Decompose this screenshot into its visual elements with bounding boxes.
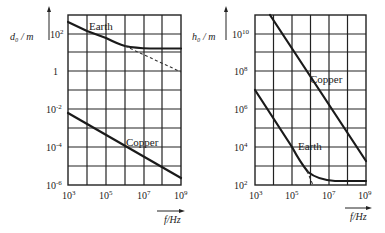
arrow-up-icon — [47, 6, 51, 12]
arrow-up-icon — [224, 6, 228, 12]
y-tick-left: 1 — [53, 66, 58, 77]
x-tick-left: 105 — [99, 189, 113, 201]
y-axis-label-right: h₀ / m — [192, 31, 215, 42]
copper-label-right: Copper — [310, 73, 343, 85]
x-tick-right: 109 — [358, 189, 372, 201]
y-tick-left: 10-4 — [46, 141, 62, 153]
earth-label-right: Earth — [298, 140, 322, 152]
y-tick-left: 102 — [50, 28, 64, 40]
arrow-right-icon — [179, 209, 185, 213]
x-axis-label-left: f/Hz — [164, 214, 181, 225]
y-tick-right: 108 — [234, 65, 248, 77]
right-chart: h₀ / m Copper Earth 1010 108 106 104 102… — [192, 6, 372, 222]
x-tick-left: 103 — [62, 189, 76, 201]
x-tick-right: 105 — [285, 189, 299, 201]
y-tick-right: 1010 — [232, 28, 250, 40]
y-tick-right: 104 — [234, 141, 248, 153]
y-tick-right: 106 — [234, 103, 248, 115]
x-tick-left: 107 — [137, 189, 151, 201]
y-tick-left: 10-2 — [46, 103, 62, 115]
right-grid — [255, 15, 366, 185]
y-tick-left: 10-6 — [46, 179, 62, 191]
copper-label-left: Copper — [126, 136, 159, 148]
y-axis-label-left: d₀ / m — [10, 31, 33, 42]
y-tick-right: 102 — [234, 179, 248, 191]
left-grid — [68, 15, 181, 185]
x-axis-label-right: f/Hz — [350, 211, 367, 222]
arrow-right-icon — [366, 206, 372, 210]
x-tick-right: 103 — [249, 189, 263, 201]
earth-label-left: Earth — [89, 20, 113, 32]
figure: d₀ / m Earth Copper 102 1 10-2 10-4 — [0, 0, 385, 233]
x-tick-left: 109 — [174, 189, 188, 201]
left-chart: d₀ / m Earth Copper 102 1 10-2 10-4 — [10, 6, 188, 225]
earth-extrapolation-left — [125, 46, 181, 72]
x-tick-right: 107 — [322, 189, 336, 201]
